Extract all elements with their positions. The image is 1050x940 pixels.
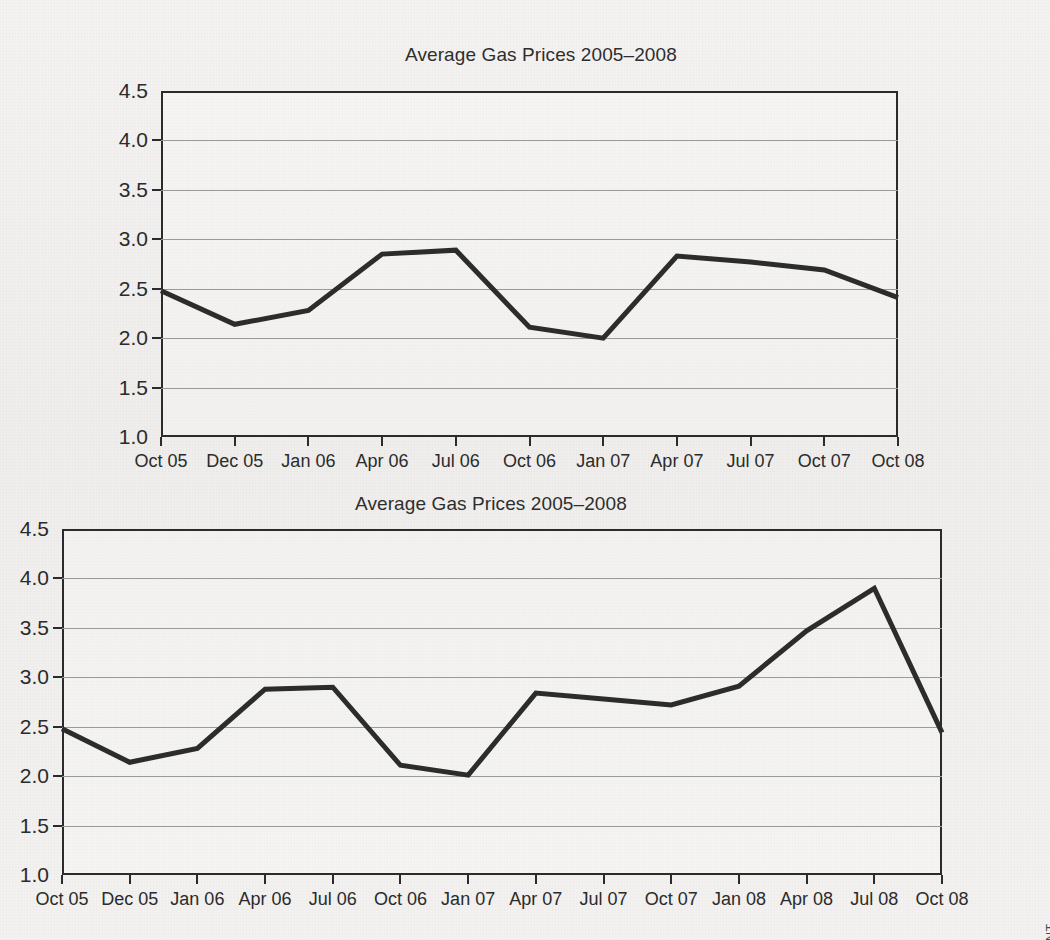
series-layer-top (161, 91, 898, 437)
x-tick-mark (234, 437, 236, 446)
y-tick-mark (53, 627, 62, 629)
x-tick-label: Jan 06 (170, 889, 224, 910)
x-tick-label: Oct 06 (503, 451, 556, 472)
y-tick-mark (53, 577, 62, 579)
y-tick-label: 4.5 (119, 79, 148, 103)
y-tick-mark (53, 676, 62, 678)
y-tick-label: 2.0 (119, 326, 148, 350)
x-tick-mark (307, 437, 309, 446)
x-tick-mark (264, 875, 266, 884)
y-tick-label: 3.5 (20, 616, 49, 640)
x-tick-mark (160, 437, 162, 446)
x-tick-mark (670, 875, 672, 884)
y-tick-mark (152, 387, 161, 389)
x-tick-mark (381, 437, 383, 446)
y-tick-label: 4.0 (20, 566, 49, 590)
x-tick-mark (332, 875, 334, 884)
x-tick-label: Oct 05 (35, 889, 88, 910)
x-tick-mark (941, 875, 943, 884)
y-tick-label: 3.0 (20, 665, 49, 689)
x-tick-mark (399, 875, 401, 884)
x-tick-mark (873, 875, 875, 884)
x-tick-mark (196, 875, 198, 884)
y-tick-label: 2.5 (20, 715, 49, 739)
y-tick-mark (53, 825, 62, 827)
x-tick-label: Apr 07 (650, 451, 703, 472)
y-tick-label: 1.5 (20, 814, 49, 838)
y-tick-label: 1.0 (20, 863, 49, 887)
y-tick-label: 4.0 (119, 128, 148, 152)
series-layer-bottom (62, 529, 942, 875)
chart-figure-top: Average Gas Prices 2005–2008 1.01.52.02.… (0, 0, 960, 470)
y-tick-mark (152, 238, 161, 240)
x-tick-mark (603, 875, 605, 884)
y-tick-label: 3.0 (119, 227, 148, 251)
x-tick-mark (750, 437, 752, 446)
x-tick-mark (455, 437, 457, 446)
x-tick-label: Jan 08 (712, 889, 766, 910)
plot-area-top: 1.01.52.02.53.03.54.04.5 Oct 05Dec 05Jan… (161, 91, 898, 437)
x-tick-mark (467, 875, 469, 884)
x-tick-label: Apr 08 (780, 889, 833, 910)
x-tick-label: Oct 08 (871, 451, 924, 472)
y-tick-label: 2.5 (119, 277, 148, 301)
y-tick-label: 4.5 (20, 517, 49, 541)
x-tick-mark (806, 875, 808, 884)
y-tick-mark (152, 139, 161, 141)
x-tick-label: Apr 06 (356, 451, 409, 472)
x-tick-label: Jul 07 (727, 451, 775, 472)
x-tick-label: Oct 06 (374, 889, 427, 910)
x-tick-label: Apr 06 (239, 889, 292, 910)
x-tick-label: Oct 05 (134, 451, 187, 472)
y-tick-mark (152, 288, 161, 290)
y-tick-mark (152, 337, 161, 339)
x-tick-mark (129, 875, 131, 884)
photo-credit: COURTESY, ENERGY INFORMATION SERVICE, U.… (1044, 923, 1050, 940)
x-tick-label: Oct 07 (798, 451, 851, 472)
x-tick-mark (602, 437, 604, 446)
x-tick-mark (676, 437, 678, 446)
x-tick-label: Jan 07 (441, 889, 495, 910)
x-tick-mark (823, 437, 825, 446)
y-tick-label: 3.5 (119, 178, 148, 202)
x-tick-label: Jul 08 (850, 889, 898, 910)
y-tick-mark (53, 775, 62, 777)
plot-area-bottom: 1.01.52.02.53.03.54.04.5 Oct 05Dec 05Jan… (62, 529, 942, 875)
y-tick-mark (53, 726, 62, 728)
series-line-bottom (62, 588, 942, 775)
x-tick-mark (535, 875, 537, 884)
y-tick-label: 1.5 (119, 376, 148, 400)
x-tick-mark (529, 437, 531, 446)
chart-title-top: Average Gas Prices 2005–2008 (405, 44, 677, 66)
x-tick-label: Apr 07 (509, 889, 562, 910)
y-tick-label: 2.0 (20, 764, 49, 788)
x-tick-label: Jan 07 (576, 451, 630, 472)
x-tick-label: Jan 06 (281, 451, 335, 472)
x-tick-label: Jul 07 (580, 889, 628, 910)
y-tick-mark (152, 189, 161, 191)
x-tick-mark (61, 875, 63, 884)
y-tick-label: 1.0 (119, 425, 148, 449)
x-tick-label: Jul 06 (432, 451, 480, 472)
x-tick-label: Oct 07 (645, 889, 698, 910)
x-tick-label: Oct 08 (915, 889, 968, 910)
x-tick-label: Dec 05 (206, 451, 263, 472)
x-tick-label: Jul 06 (309, 889, 357, 910)
x-tick-mark (738, 875, 740, 884)
chart-title-bottom: Average Gas Prices 2005–2008 (355, 493, 627, 515)
chart-figure-bottom: Average Gas Prices 2005–2008 1.01.52.02.… (0, 470, 1000, 940)
x-tick-label: Dec 05 (101, 889, 158, 910)
x-tick-mark (897, 437, 899, 446)
series-line-top (161, 250, 898, 338)
